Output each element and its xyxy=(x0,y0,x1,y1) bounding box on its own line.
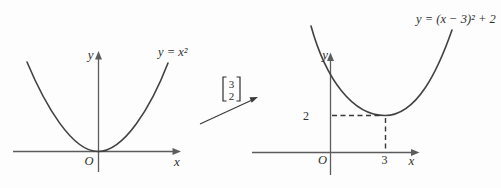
left-parabola-curve xyxy=(27,62,168,152)
left-y-axis-label: y xyxy=(86,47,94,62)
right-equation-label: y = (x − 3)² + 2 xyxy=(414,12,496,26)
right-x-axis-label: x xyxy=(408,153,415,168)
right-y-axis-arrow-icon xyxy=(327,53,334,62)
right-y-tick-label: 2 xyxy=(303,109,309,123)
left-x-axis-label: x xyxy=(173,154,180,169)
right-origin-label: O xyxy=(318,153,327,167)
right-graph: y x O 2 3 y = (x − 3)² + 2 xyxy=(252,12,496,175)
left-equation-label: y = x² xyxy=(156,45,188,59)
vector-top-value: 3 xyxy=(229,78,235,90)
vector-bottom-value: 2 xyxy=(229,90,235,102)
right-parabola-curve xyxy=(311,26,452,116)
translation-arrow xyxy=(200,101,251,125)
figure-canvas: y x O y = x² 3 2 xyxy=(0,0,501,188)
translation-arrow-head-icon xyxy=(250,97,259,103)
right-x-tick-label: 3 xyxy=(382,153,388,167)
translation-diagram: y x O y = x² 3 2 xyxy=(0,0,501,188)
translation-group: 3 2 xyxy=(200,77,258,124)
left-graph: y x O y = x² xyxy=(13,45,188,172)
left-origin-label: O xyxy=(84,154,93,168)
right-y-axis-label: y xyxy=(320,47,328,62)
vector-left-bracket xyxy=(223,77,227,101)
left-y-axis-arrow-icon xyxy=(95,51,102,60)
vector-right-bracket xyxy=(237,77,241,101)
